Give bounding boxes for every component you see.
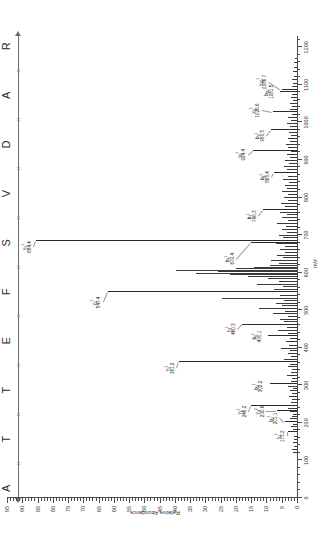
mz-tick-minor [297,144,300,145]
spectrum-peak [281,348,297,349]
spectrum-peak [288,200,297,201]
spectrum-peak [292,114,297,115]
spectrum-peak [280,319,297,320]
abundance-tick-major [99,498,100,503]
spectrum-peak [281,203,297,204]
sequence-residue: F [0,288,12,295]
peak-label-leader-line [176,362,179,368]
spectrum-peak [294,76,297,77]
cleavage-marker-icon: × [14,363,23,368]
mz-tick-minor [297,189,300,190]
spectrum-peak [288,366,297,367]
abundance-tick-major [160,498,161,503]
abundance-tick-minor [208,498,209,501]
spectrum-peak [289,132,297,133]
mz-tick-major [297,459,302,460]
spectrum-peak [290,350,297,351]
abundance-tick-major [190,498,191,503]
spectrum-peak [293,442,297,443]
spectrum-peak [292,106,297,107]
spectrum-peak [287,327,297,328]
mz-tick-minor [297,129,300,130]
peak-label: b81865.4 [260,171,271,183]
spectrum-peak [280,249,297,250]
spectrum-peak [284,197,297,198]
spectrum-peak [285,311,297,312]
abundance-tick-minor [71,498,72,501]
spectrum-peak [288,220,297,221]
spectrum-peak [291,135,297,136]
spectrum-peak [294,67,297,68]
abundance-tick-minor [117,498,118,501]
spectrum-peak [291,402,297,403]
mz-tick-minor [297,212,300,213]
spectrum-peak [277,223,297,224]
spectrum-peak [222,298,297,299]
mz-tick-minor [297,324,300,325]
abundance-tick-minor [212,498,213,501]
sequence-residue: A [0,91,12,99]
spectrum-peak [294,439,297,440]
abundance-tick-minor [34,498,35,501]
peak-label-leader-line [266,130,270,136]
mz-tick-minor [297,54,300,55]
mz-tick-label: 200 [303,418,309,427]
mz-tick-minor [297,242,300,243]
mz-tick-minor [297,39,300,40]
spectrum-peak [282,229,297,230]
peak-label: y911026.6 [251,103,262,117]
spectrum-peak [288,147,297,148]
spectrum-peak [293,452,297,453]
spectrum-peak [290,126,297,127]
spectrum-peak [273,112,297,113]
peptide-sequence-ladder: A×T×T×E×F×S×V×D×A×R [18,36,19,498]
cleavage-marker-icon: × [14,117,23,122]
spectrum-peak [288,316,297,317]
mz-tick-minor [297,407,300,408]
spectrum-peak [284,321,297,322]
spectrum-peak [288,431,297,432]
spectrum-peak [290,412,297,413]
abundance-tick-label: 5 [279,506,285,528]
spectrum-peak [286,342,297,343]
mz-tick-major [297,422,302,423]
spectrum-peak [284,300,297,301]
spectrum-peak [287,188,297,189]
spectrum-peak [282,191,297,192]
mz-tick-major [297,46,302,47]
abundance-tick-minor [135,498,136,501]
abundance-tick-label: 15 [248,506,254,528]
spectrum-peak [248,276,297,277]
abundance-tick-minor [56,498,57,501]
mz-tick-major [297,384,302,385]
spectrum-peak [293,100,297,101]
spectrum-peak [282,217,297,218]
abundance-tick-major [236,498,237,503]
peak-label-mass: 302.2 [259,381,264,393]
spectrum-peak [290,141,297,142]
mz-tick-minor [297,287,300,288]
abundance-tick-minor [108,498,109,501]
abundance-tick-minor [196,498,197,501]
abundance-tick-minor [86,498,87,501]
abundance-tick-major [68,498,69,503]
mz-tick-label: 500 [303,306,309,315]
mz-tick-minor [297,452,300,453]
spectrum-peak [286,144,297,145]
spectrum-peak [280,295,297,296]
spectrum-peak [283,258,297,259]
spectrum-peak [270,265,297,266]
spectrum-peak [268,336,297,337]
spectrum-peak [293,429,297,430]
peak-label-mass: 230.6 [261,406,266,418]
peak-label-leader-line [287,432,288,436]
mz-tick-minor [297,76,300,77]
peak-label-mass: 430.1 [258,331,263,343]
peak-label-mass: 865.4 [266,171,271,183]
peak-label-leader-line [248,406,251,412]
spectrum-peak [176,270,297,271]
spectrum-peak [290,103,297,104]
abundance-tick-label: 80 [50,506,56,528]
mz-tick-minor [297,279,300,280]
peak-label-leader-line [103,292,108,302]
